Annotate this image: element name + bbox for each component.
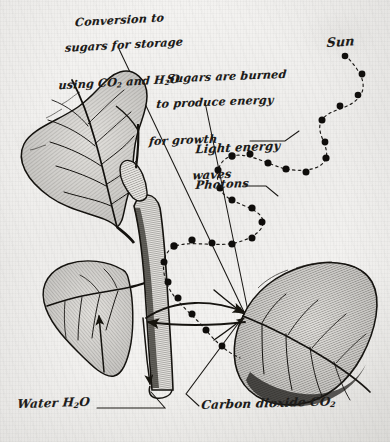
label-light-energy: Light energy waves: [174, 126, 282, 209]
leader-water: [97, 392, 165, 408]
right-leaf: [234, 262, 377, 406]
label-water: Water H2O: [17, 396, 91, 412]
label-conversion-line1: Conversion to: [75, 10, 165, 29]
label-sugars-line2: to produce energy: [148, 93, 285, 111]
label-co2-pre: Carbon dioxide CO: [201, 394, 331, 412]
illustration-canvas: Conversion to sugars for storage using C…: [0, 0, 390, 442]
label-light-energy-line1: Light energy: [195, 138, 281, 156]
label-sun: Sun: [326, 34, 355, 50]
label-conversion-line2: sugars for storage: [57, 35, 184, 54]
label-photons: Photons: [195, 177, 249, 192]
label-water-post: O: [79, 395, 91, 409]
lower-leaf: [43, 261, 152, 376]
label-sugars-line1: Sugars are burned: [166, 66, 287, 85]
label-co2-sub: 2: [330, 400, 336, 409]
label-conversion-co2-pre: using CO: [58, 75, 118, 92]
label-water-pre: Water H: [17, 395, 75, 411]
